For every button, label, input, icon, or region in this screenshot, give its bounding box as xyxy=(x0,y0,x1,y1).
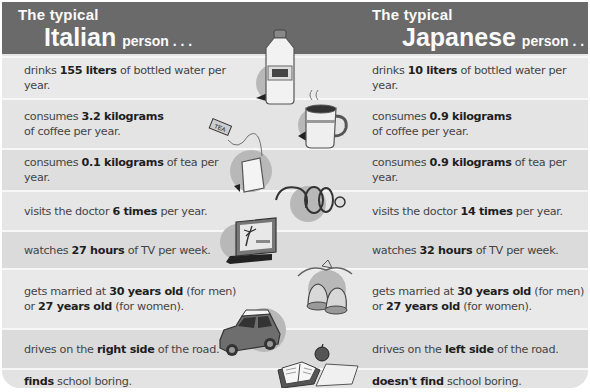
italian-heading-nationality: Italian xyxy=(44,23,116,51)
stethoscope-icon xyxy=(270,178,350,228)
japanese-fact: visits the doctor 14 times per year. xyxy=(372,192,587,230)
book-apple-icon xyxy=(276,344,360,388)
italian-fact: drinks 155 liters of bottled water per y… xyxy=(24,58,244,98)
japanese-fact: consumes 0.9 kilograms of coffee per yea… xyxy=(372,100,587,148)
italian-fact: gets married at 30 years old (for men) o… xyxy=(24,270,244,328)
japanese-heading-suffix: person . . . xyxy=(518,33,588,49)
japanese-fact: consumes 0.9 kilograms of tea per year. xyxy=(372,150,587,190)
italian-fact: drives on the right side of the road. xyxy=(24,330,244,368)
japanese-heading-prefix: The typical xyxy=(372,6,588,23)
television-icon xyxy=(216,216,280,268)
japanese-heading: The typical Japanese person . . . xyxy=(372,6,588,55)
italian-heading-suffix: person . . . xyxy=(118,33,192,49)
japanese-fact: drinks 10 liters of bottled water per ye… xyxy=(372,58,587,98)
car-icon xyxy=(216,304,284,360)
comparison-infographic: The typical Italian person . . . The typ… xyxy=(2,2,588,388)
japanese-fact: doesn't find school boring. xyxy=(372,370,587,388)
italian-heading: The typical Italian person . . . xyxy=(18,6,192,55)
coffee-mug-icon xyxy=(298,90,354,150)
japanese-fact: drives on the left side of the road. xyxy=(372,330,587,368)
tea-bag-icon: TEA xyxy=(208,116,268,198)
japanese-fact: watches 32 hours of TV per week. xyxy=(372,232,587,268)
japanese-fact: gets married at 30 years old (for men) o… xyxy=(372,270,587,328)
italian-fact: finds school boring. xyxy=(24,370,244,388)
italian-fact: watches 27 hours of TV per week. xyxy=(24,232,244,268)
japanese-heading-nationality: Japanese xyxy=(402,23,516,51)
wedding-bells-icon xyxy=(294,256,358,328)
italian-heading-prefix: The typical xyxy=(18,6,192,23)
